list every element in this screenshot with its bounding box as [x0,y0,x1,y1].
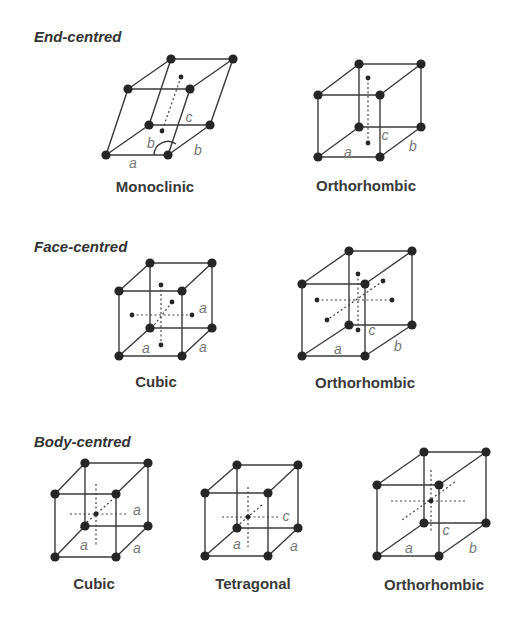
lattice-title: Orthorhombic [384,576,484,593]
corner-atom [111,552,120,561]
axis-label: b [409,138,417,154]
corner-atom [293,523,302,532]
corner-atom [407,320,416,329]
section-headings: End-centredFace-centredBody-centred [34,28,132,450]
cell-edge [365,251,412,284]
corner-atom [407,246,416,255]
cell-edge [55,463,85,494]
corner-atom [101,150,110,159]
axis-label: a [199,300,207,316]
corner-atom [80,521,89,530]
lattice-end-orthorhombic: cabOrthorhombic [313,59,425,194]
bravais-lattices-diagram: End-centredFace-centredBody-centred cbba… [0,0,527,627]
corner-atom [293,460,302,469]
cell-edge [116,526,148,557]
corner-atom [354,59,363,68]
corner-atom [344,320,353,329]
corner-atom [228,54,237,63]
centred-atom [429,499,434,504]
centred-atom [246,515,251,520]
centred-atom [190,313,195,318]
cell-edge [302,251,349,284]
axis-label: b [469,540,477,556]
lattice-title: Cubic [135,373,177,390]
corner-atom [313,152,322,161]
corner-atom [372,480,381,489]
cell-edge [377,452,424,485]
corner-atom [144,120,153,129]
corner-atom [114,286,123,295]
lattice-title: Tetragonal [215,575,291,592]
corner-atom [360,279,369,288]
cell-edge [116,463,148,494]
axis-label: a [142,340,150,356]
axis-label: a [80,537,88,553]
centred-atom [356,272,361,277]
lattice-body-tetragonal: caaTetragonal [200,460,302,592]
cell-edge [439,452,486,485]
cell-edge [106,125,149,155]
corner-atom [375,90,384,99]
corner-atom [232,460,241,469]
centred-atom [366,76,371,81]
corner-atom [207,323,216,332]
corner-atom [177,351,186,360]
axis-label: b [147,135,155,151]
centred-atom [130,313,135,318]
lattice-title: Orthorhombic [315,374,415,391]
corner-atom [143,458,152,467]
cell-edge [119,263,150,291]
centred-atom [381,279,386,284]
axis-label: a [133,540,141,556]
axis-label: b [394,338,402,354]
corner-atom [232,523,241,532]
corner-atom [416,122,425,131]
cell-edge [168,125,210,155]
centred-atom [159,283,164,288]
corner-atom [80,458,89,467]
corner-atom [481,447,490,456]
corner-atom [145,258,154,267]
corner-atom [344,246,353,255]
centred-atom [159,343,164,348]
corner-atom [166,54,175,63]
cell-edge [210,59,233,125]
corner-atom [263,551,272,560]
axis-label: a [405,540,413,556]
corner-atom [263,488,272,497]
axis-label: a [334,341,342,357]
centred-atom [390,298,395,303]
corner-atom [163,150,172,159]
axis-label: c [369,322,376,338]
axis-label: b [194,142,202,158]
lattice-figures: cbbaMonocliniccabOrthorhombicaaaCubiccab… [50,54,490,593]
corner-atom [200,551,209,560]
cell-edge [302,325,349,356]
corner-atom [123,84,132,93]
corner-atom [297,279,306,288]
cell-edge [318,64,359,95]
corner-atom [481,518,490,527]
cell-edge [149,59,171,125]
section-heading: Body-centred [34,433,132,450]
corner-atom [375,152,384,161]
lattice-end-monoclinic: cbbaMonoclinic [101,54,237,195]
corner-atom [419,447,428,456]
axis-label: c [186,109,193,125]
corner-atom [372,551,381,560]
axis-label: a [233,536,241,552]
lattice-title: Cubic [73,575,115,592]
lattice-title: Orthorhombic [316,177,416,194]
cell-edge [182,263,212,291]
corner-atom [205,120,214,129]
cell-edge [106,89,128,155]
axis-label: a [290,538,298,554]
section-heading: End-centred [34,28,122,45]
axis-label: c [443,522,450,538]
corner-atom [434,551,443,560]
axis-label: a [344,144,352,160]
corner-atom [313,90,322,99]
centred-atom [315,298,320,303]
lattice-face-orthorhombic: cabOrthorhombic [297,246,416,391]
lattice-body-cubic: aaaCubic [50,458,152,592]
